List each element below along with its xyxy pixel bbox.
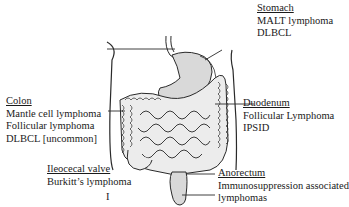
- ileocecal-label: Ileocecal valve Burkitt’s lymphoma: [47, 163, 131, 188]
- colon-label: Colon Mantle cell lymphoma Follicular ly…: [6, 95, 101, 145]
- torso-outline-right: [231, 50, 236, 170]
- leader-line-stomach: [205, 50, 222, 60]
- colon-title: Colon: [6, 95, 101, 108]
- anorectum-line-2: lymphomas: [218, 192, 349, 205]
- duodenum-line-1: Follicular Lymphoma: [243, 110, 334, 123]
- anorectum-line-1: Immunosuppression associated: [218, 180, 349, 193]
- stomach-title: Stomach: [257, 2, 333, 15]
- ileocecal-line-1: Burkitt’s lymphoma: [47, 176, 131, 189]
- duodenum-label: Duodenum Follicular Lymphoma IPSID: [243, 97, 334, 135]
- colon-line-2: Follicular lymphoma: [6, 120, 101, 133]
- colon-line-1: Mantle cell lymphoma: [6, 108, 101, 121]
- stomach-line-1: MALT lymphoma: [257, 15, 333, 28]
- duodenum-line-2: IPSID: [243, 122, 334, 135]
- torso-outline-left: [107, 42, 114, 170]
- stomach-label: Stomach MALT lymphoma DLBCL: [257, 2, 333, 40]
- rectum-shape: [170, 172, 187, 205]
- duodenum-title: Duodenum: [243, 97, 334, 110]
- anorectum-title: Anorectum: [218, 167, 349, 180]
- anorectum-label: Anorectum Immunosuppression associated l…: [218, 167, 349, 205]
- stomach-line-2: DLBCL: [257, 27, 333, 40]
- ileocecal-title: Ileocecal valve: [47, 163, 131, 176]
- colon-line-3: DLBCL [uncommon]: [6, 133, 101, 146]
- footer-mark: I: [106, 191, 110, 204]
